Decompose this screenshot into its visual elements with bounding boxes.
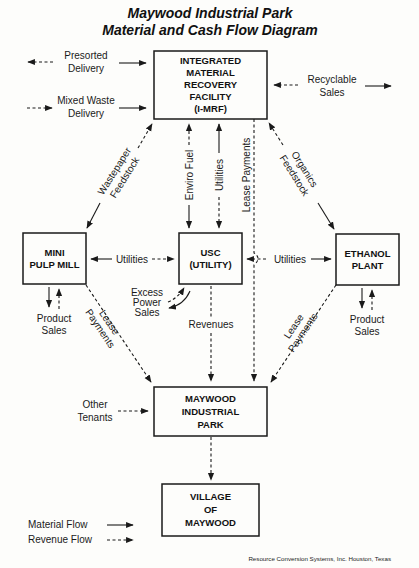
node-maywood-industrial-park: MAYWOOD INDUSTRIAL PARK — [154, 387, 267, 436]
edge-utilities-pulp-mill: Utilities — [91, 254, 174, 265]
svg-text:PARK: PARK — [197, 419, 223, 430]
edge-mixed-waste-delivery: Mixed Waste Delivery — [27, 95, 146, 119]
flow-diagram: Maywood Industrial Park Material and Cas… — [0, 0, 419, 568]
edge-recyclable-sales: Recyclable Sales — [274, 74, 391, 98]
svg-text:Sales: Sales — [354, 326, 379, 337]
svg-text:Lease Payments: Lease Payments — [241, 138, 252, 213]
edge-utilities-ethanol: Utilities — [247, 254, 331, 265]
edge-product-sales-ethanol: Product Sales — [350, 288, 385, 337]
credit-text: Resource Conversion Systems, Inc. Housto… — [248, 555, 391, 562]
svg-text:Utilities: Utilities — [214, 159, 225, 191]
node-usc-utility: USC (UTILITY) — [179, 233, 242, 284]
svg-text:Presorted: Presorted — [64, 50, 107, 61]
svg-text:Enviro Fuel: Enviro Fuel — [184, 150, 195, 201]
edge-enviro-fuel: Enviro Fuel — [184, 124, 195, 228]
svg-text:PULP MILL: PULP MILL — [30, 259, 80, 270]
edge-utilities-vertical: Utilities — [214, 124, 225, 228]
node-ethanol-plant: ETHANOL PLANT — [336, 234, 399, 285]
svg-text:RECOVERY: RECOVERY — [184, 79, 238, 90]
title-line-2: Material and Cash Flow Diagram — [102, 22, 318, 38]
svg-text:Utilities: Utilities — [116, 254, 148, 265]
svg-text:Product: Product — [37, 313, 72, 324]
node-village-of-maywood: VILLAGE OF MAYWOOD — [162, 484, 259, 536]
node-imrf: INTEGRATED MATERIAL RECOVERY FACILITY (I… — [154, 51, 267, 119]
legend-revenue-flow: Revenue Flow — [28, 534, 93, 545]
svg-text:OF: OF — [204, 504, 217, 515]
svg-text:(UTILITY): (UTILITY) — [189, 259, 231, 270]
svg-text:Other: Other — [82, 399, 108, 410]
svg-text:INTEGRATED: INTEGRATED — [180, 55, 241, 66]
svg-text:PLANT: PLANT — [352, 260, 384, 271]
svg-text:INDUSTRIAL: INDUSTRIAL — [182, 406, 240, 417]
edge-lease-payments-vertical: Lease Payments — [241, 119, 258, 381]
edge-presorted-delivery: Presorted Delivery — [28, 50, 146, 74]
edge-organics-feedstock: Organics Feedstock — [269, 123, 334, 229]
svg-text:Sales: Sales — [41, 325, 66, 336]
svg-text:Delivery: Delivery — [68, 63, 104, 74]
svg-text:(I-MRF): (I-MRF) — [194, 103, 227, 114]
svg-text:MAYWOOD: MAYWOOD — [185, 393, 236, 404]
edge-wastepaper-feedstock: Wastepaper Feedstock — [87, 124, 152, 228]
svg-text:Sales: Sales — [319, 87, 344, 98]
legend: Material Flow Revenue Flow — [28, 519, 133, 545]
svg-text:Mixed Waste: Mixed Waste — [57, 95, 115, 106]
legend-material-flow: Material Flow — [28, 519, 88, 530]
edge-excess-power-sales: Excess Power Sales — [131, 287, 190, 318]
svg-text:MATERIAL: MATERIAL — [186, 67, 235, 78]
svg-text:USC: USC — [200, 247, 220, 258]
svg-text:Tenants: Tenants — [77, 412, 112, 423]
svg-text:VILLAGE: VILLAGE — [190, 491, 231, 502]
svg-text:MINI: MINI — [44, 247, 64, 258]
svg-text:Delivery: Delivery — [68, 108, 104, 119]
title-line-1: Maywood Industrial Park — [128, 5, 294, 21]
svg-text:Revenues: Revenues — [188, 319, 233, 330]
svg-text:FACILITY: FACILITY — [189, 91, 232, 102]
svg-text:Product: Product — [350, 314, 385, 325]
edge-other-tenants: Other Tenants — [77, 399, 148, 423]
node-mini-pulp-mill: MINI PULP MILL — [23, 233, 86, 284]
edge-product-sales-pulp: Product Sales — [37, 287, 72, 336]
svg-text:Recyclable: Recyclable — [308, 74, 357, 85]
edge-lease-payments-ethanol: Lease Payments — [271, 285, 336, 382]
svg-text:Sales: Sales — [134, 307, 159, 318]
svg-text:ETHANOL: ETHANOL — [345, 248, 391, 259]
svg-text:MAYWOOD: MAYWOOD — [185, 517, 236, 528]
edge-revenues: Revenues — [188, 286, 233, 381]
svg-text:Utilities: Utilities — [274, 254, 306, 265]
